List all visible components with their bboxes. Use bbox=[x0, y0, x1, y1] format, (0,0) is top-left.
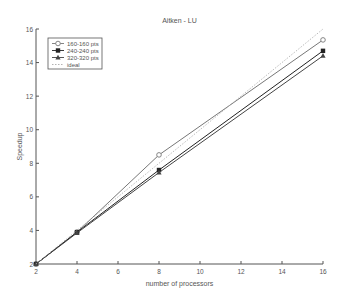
x-axis-label: number of processors bbox=[146, 280, 214, 288]
legend-label: ideal bbox=[67, 62, 80, 68]
chart-title: Aitken - LU bbox=[162, 17, 197, 24]
speedup-chart: Aitken - LU246810121416246810121416numbe… bbox=[0, 0, 346, 297]
star-marker-icon bbox=[321, 49, 325, 53]
y-tick-label: 16 bbox=[26, 26, 34, 33]
series-320-320-pts bbox=[33, 53, 325, 266]
x-tick-label: 10 bbox=[196, 268, 204, 275]
x-tick-label: 8 bbox=[157, 268, 161, 275]
y-tick-label: 12 bbox=[26, 93, 34, 100]
circle-marker-icon bbox=[157, 153, 162, 158]
y-tick-label: 6 bbox=[29, 193, 33, 200]
y-tick-label: 4 bbox=[29, 227, 33, 234]
y-tick-label: 14 bbox=[26, 59, 34, 66]
y-tick-label: 10 bbox=[26, 126, 34, 133]
y-tick-label: 8 bbox=[29, 160, 33, 167]
x-tick-label: 16 bbox=[319, 268, 327, 275]
legend-label: 160-160 pts bbox=[67, 41, 99, 47]
x-tick-label: 4 bbox=[75, 268, 79, 275]
legend-label: 320-320 pts bbox=[67, 55, 99, 61]
y-axis-label: Speedup bbox=[16, 132, 24, 160]
circle-marker-icon bbox=[321, 38, 326, 43]
legend-label: 240-240 pts bbox=[67, 48, 99, 54]
star-marker-icon bbox=[56, 48, 60, 52]
y-tick-label: 2 bbox=[29, 261, 33, 268]
circle-marker-icon bbox=[56, 41, 61, 46]
x-tick-label: 6 bbox=[116, 268, 120, 275]
x-tick-label: 12 bbox=[237, 268, 245, 275]
x-tick-label: 2 bbox=[34, 268, 38, 275]
legend: 160-160 pts240-240 pts320-320 ptsideal bbox=[48, 38, 102, 69]
x-tick-label: 14 bbox=[278, 268, 286, 275]
triangle-marker-icon bbox=[320, 53, 325, 58]
